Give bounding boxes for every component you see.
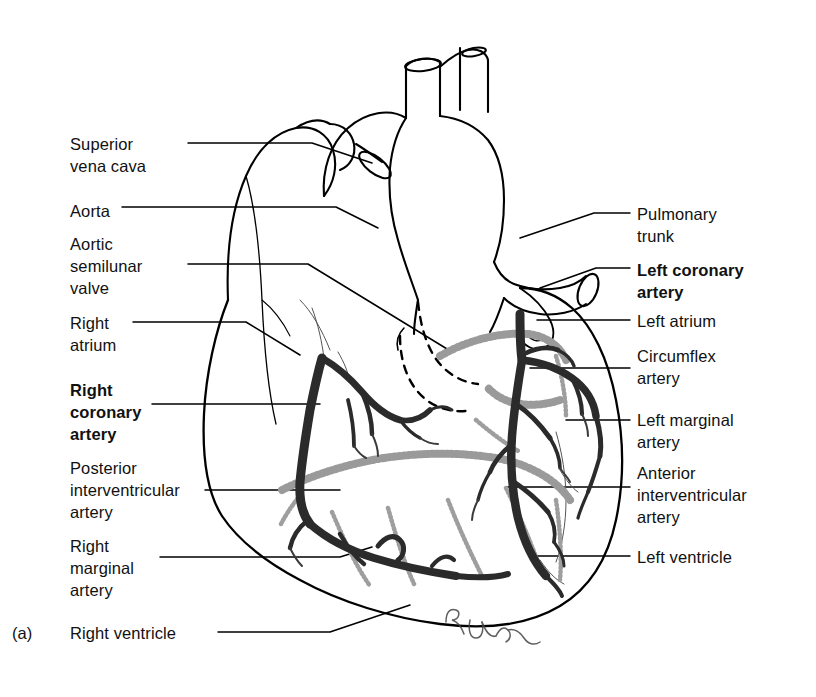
left-marginal-artery: [596, 416, 601, 456]
label-right-marginal-artery: Right marginal artery: [70, 535, 134, 601]
label-aortic-semilunar-valve: Aortic semilunar valve: [70, 233, 142, 299]
left-marginal-twig: [578, 492, 588, 518]
lca-auricular-branch: [524, 348, 558, 354]
ascending-aorta-right-wall: [440, 116, 504, 262]
label-right-coronary-artery: Right coronary artery: [70, 379, 141, 445]
leader-pulmonary-trunk: [520, 213, 630, 238]
rca-proximal-branch: [322, 358, 400, 420]
rca-proximal-branch-tip: [400, 410, 430, 421]
aorta-branch1-lumen: [404, 57, 441, 73]
leader-superior-vena-cava: [188, 143, 372, 163]
label-posterior-interventricular-artery: Posterior interventricular artery: [70, 457, 180, 523]
aorta-inner-wall: [389, 118, 418, 300]
rma-branch-b: [432, 557, 454, 566]
right-atrium-fold: [262, 300, 290, 336]
rca-branch-down-b: [348, 400, 354, 446]
label-left-atrium: Left atrium: [637, 310, 716, 332]
leader-aorta: [122, 207, 378, 228]
vein-branch-ac: [520, 400, 560, 405]
leader-right-ventricle: [218, 605, 410, 632]
lad-septal-1-tip: [478, 472, 490, 500]
figure-caption-letter: (a): [12, 622, 32, 644]
lad-diagonal-1: [516, 404, 550, 438]
great-cardiac-vein-upper: [440, 334, 528, 356]
label-left-marginal-artery: Left marginal artery: [637, 409, 734, 453]
label-circumflex-artery: Circumflex artery: [637, 345, 716, 389]
label-right-atrium: Right atrium: [70, 312, 116, 356]
right-marginal-artery-distal: [456, 574, 508, 577]
pulmonary-trunk-lumen: [573, 271, 602, 309]
label-superior-vena-cava: Superior vena cava: [70, 133, 146, 177]
svc-lumen: [355, 147, 395, 183]
label-right-ventricle: Right ventricle: [70, 622, 176, 644]
right-coronary-artery-trunk: [300, 358, 322, 524]
right-marginal-artery: [310, 524, 456, 576]
posterior-interventricular-artery: [290, 520, 308, 548]
left-coronary-artery-trunk: [520, 314, 522, 360]
heart-anatomy-figure: Superior vena cava Aorta Aortic semiluna…: [0, 0, 816, 697]
pulmonary-trunk-left-edge: [490, 298, 504, 332]
label-aorta: Aorta: [70, 200, 110, 222]
label-anterior-interventricular-artery: Anterior interventricular artery: [637, 462, 747, 528]
label-left-coronary-artery: Left coronary artery: [637, 259, 744, 303]
superior-vena-cava-outline: [228, 127, 336, 300]
right-atrium-inner-contour: [246, 176, 276, 424]
posterior-vein-main2: [384, 454, 506, 460]
label-pulmonary-trunk: Pulmonary trunk: [637, 203, 717, 247]
rca-twig-b: [430, 407, 452, 410]
label-left-ventricle: Left ventricle: [637, 546, 732, 568]
lad-diagonal-2-tip: [548, 512, 555, 542]
